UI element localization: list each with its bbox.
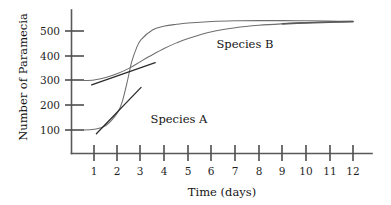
- x-tick-label-4: 4: [161, 165, 168, 177]
- x-tick-labels: 1 2 3 4 5 6 7 8 9 10 11 12: [91, 165, 360, 177]
- x-tick-label-12: 12: [346, 165, 359, 177]
- x-tick-label-10: 10: [299, 165, 312, 177]
- tangent-line-species-b: [92, 63, 156, 85]
- plot-area: 500 400 300 200 100 1 2 3 4 5: [0, 0, 391, 205]
- x-tick-label-11: 11: [323, 165, 336, 177]
- x-tick-label-6: 6: [208, 165, 215, 177]
- x-tick-label-2: 2: [114, 165, 121, 177]
- x-tick-label-7: 7: [232, 165, 239, 177]
- x-axis-title: Time (days): [188, 185, 256, 199]
- y-tick-label-200: 200: [40, 99, 60, 111]
- series-label-species-b: Species B: [216, 37, 273, 51]
- y-tick-label-300: 300: [40, 74, 60, 86]
- x-tick-label-5: 5: [185, 165, 192, 177]
- x-tick-label-3: 3: [137, 165, 144, 177]
- y-tick-marks: [65, 31, 84, 130]
- x-tick-label-1: 1: [91, 165, 98, 177]
- y-tick-label-400: 400: [40, 50, 60, 62]
- y-tick-labels: 500 400 300 200 100: [40, 25, 60, 136]
- x-tick-label-8: 8: [256, 165, 263, 177]
- y-tick-label-100: 100: [40, 124, 60, 136]
- x-tick-label-9: 9: [279, 165, 286, 177]
- y-tick-label-500: 500: [40, 25, 60, 37]
- tangent-line-species-a: [96, 87, 141, 133]
- chart-figure: Number of Paramecia 500 400 300 200 100: [0, 0, 391, 205]
- curve-merged-plateau: [282, 22, 353, 24]
- series-label-species-a: Species A: [151, 112, 209, 126]
